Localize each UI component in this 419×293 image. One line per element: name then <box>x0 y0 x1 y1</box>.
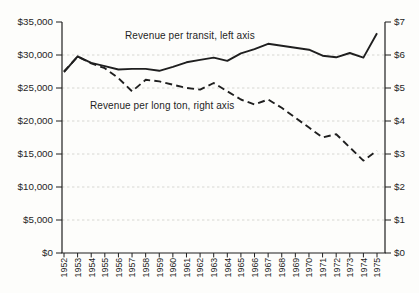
right-axis-tick-label: $1 <box>394 214 405 225</box>
chart-figure: $0$5,000$10,000$15,000$20,000$25,000$30,… <box>0 0 419 293</box>
x-axis-tick-label: 1963 <box>209 258 219 278</box>
right-axis-tick-label: $7 <box>394 16 405 27</box>
x-axis-tick-label: 1971 <box>318 258 328 278</box>
left-axis-tick-label: $10,000 <box>18 181 54 192</box>
right-axis-tick-label: $4 <box>394 115 405 126</box>
right-axis-tick-label: $3 <box>394 148 405 159</box>
x-axis-tick-label: 1955 <box>100 258 110 278</box>
x-axis-tick-label: 1970 <box>304 258 314 278</box>
right-axis-tick-label: $2 <box>394 181 405 192</box>
right-axis-tick-label: $0 <box>394 247 405 258</box>
x-axis-tick-label: 1964 <box>223 258 233 278</box>
left-axis-tick-label: $5,000 <box>23 214 54 225</box>
x-axis-tick-label: 1959 <box>155 258 165 278</box>
right-axis-tick-label: $5 <box>394 82 405 93</box>
x-axis-tick-label: 1957 <box>127 258 137 278</box>
x-axis-tick-label: 1966 <box>250 258 260 278</box>
x-axis-tick-label: 1961 <box>182 258 192 278</box>
left-axis-tick-label: $20,000 <box>18 115 54 126</box>
x-axis-tick-label: 1952 <box>59 258 69 278</box>
x-axis-tick-label: 1974 <box>359 258 369 278</box>
x-axis-tick-label: 1972 <box>332 258 342 278</box>
x-axis-tick-label: 1969 <box>291 258 301 278</box>
right-axis-tick-label: $6 <box>394 49 405 60</box>
x-axis-tick-label: 1968 <box>277 258 287 278</box>
x-axis-tick-label: 1975 <box>372 258 382 278</box>
x-axis-tick-label: 1954 <box>87 258 97 278</box>
x-axis-tick-label: 1973 <box>345 258 355 278</box>
left-axis-tick-label: $0 <box>42 247 53 258</box>
series-label-revenue-per-long-ton: Revenue per long ton, right axis <box>90 100 234 111</box>
x-axis-tick-label: 1953 <box>73 258 83 278</box>
x-axis-tick-label: 1956 <box>114 258 124 278</box>
x-axis-tick-label: 1962 <box>195 258 205 278</box>
series-label-revenue-per-transit: Revenue per transit, left axis <box>125 30 255 41</box>
x-axis-tick-label: 1967 <box>263 258 273 278</box>
left-axis-tick-label: $15,000 <box>18 148 54 159</box>
x-axis-tick-label: 1965 <box>236 258 246 278</box>
left-axis-tick-label: $25,000 <box>18 82 54 93</box>
left-axis-tick-label: $30,000 <box>18 49 54 60</box>
x-axis-tick-label: 1958 <box>141 258 151 278</box>
line-chart: $0$5,000$10,000$15,000$20,000$25,000$30,… <box>0 0 419 293</box>
left-axis-tick-label: $35,000 <box>18 16 54 27</box>
x-axis-tick-label: 1960 <box>168 258 178 278</box>
